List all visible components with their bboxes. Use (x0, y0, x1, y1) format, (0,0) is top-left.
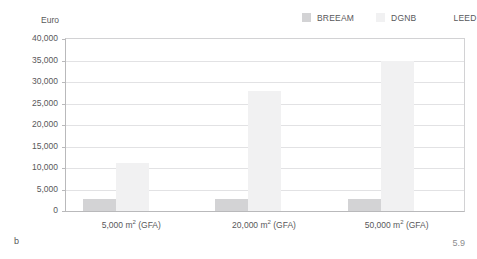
bar-dgnb[interactable] (381, 61, 414, 211)
legend-item-breeam[interactable]: BREEAM (302, 13, 354, 23)
bar-group (331, 39, 464, 211)
y-axis-tick-mark (62, 211, 66, 212)
legend-swatch-icon (302, 13, 311, 22)
bar-dgnb[interactable] (248, 91, 281, 211)
y-axis-tick-label: 30,000 (32, 76, 58, 86)
x-axis-category-label: 20,000 m2 (GFA) (232, 219, 296, 230)
legend-swatch-icon (376, 13, 385, 22)
y-axis-tick-label: 15,000 (32, 141, 58, 151)
bar-groups (66, 39, 464, 211)
legend-label: DGNB (391, 13, 416, 23)
y-axis-tick-label: 5,000 (37, 184, 58, 194)
y-axis-tick-label: 0 (53, 205, 58, 215)
y-axis-tick-label: 40,000 (32, 33, 58, 43)
bar-breeam[interactable] (83, 199, 116, 211)
x-axis-category-label: 50,000 m2 (GFA) (365, 219, 429, 230)
bar-dgnb[interactable] (116, 163, 149, 211)
bar-group (66, 39, 199, 211)
legend-item-leed[interactable]: LEED (438, 13, 476, 23)
bar-breeam[interactable] (215, 199, 248, 211)
y-axis-tick-label: 20,000 (32, 119, 58, 129)
y-axis-tick-label: 25,000 (32, 98, 58, 108)
bar-group (199, 39, 332, 211)
y-axis-tick-labels: 05,00010,00015,00020,00025,00030,00035,0… (0, 38, 58, 210)
legend-item-dgnb[interactable]: DGNB (376, 13, 416, 23)
figure-number: 5.9 (452, 238, 465, 248)
y-axis-unit-label: Euro (41, 15, 59, 25)
bar-breeam[interactable] (348, 199, 381, 211)
legend-label: LEED (453, 13, 476, 23)
legend-label: BREEAM (317, 13, 354, 23)
legend-swatch-icon (438, 13, 447, 22)
chart-legend: BREEAMDGNBLEED (302, 11, 476, 24)
plot-area (65, 38, 465, 212)
panel-letter: b (14, 236, 19, 246)
x-axis-category-label: 5,000 m2 (GFA) (102, 219, 161, 230)
y-axis-tick-label: 35,000 (32, 55, 58, 65)
y-axis-tick-label: 10,000 (32, 162, 58, 172)
chart-figure: BREEAMDGNBLEED Euro 05,00010,00015,00020… (0, 0, 477, 259)
